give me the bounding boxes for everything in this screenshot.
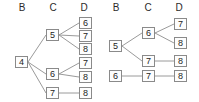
tree-node[interactable]: 8 [79, 43, 92, 55]
column-header-d: D [172, 2, 186, 13]
tree-node[interactable]: 5 [109, 40, 122, 52]
tree-node[interactable]: 7 [79, 30, 92, 42]
tree-edge [59, 35, 79, 36]
tree-panel-left: BCD 4567678788 [0, 0, 99, 102]
tree-node[interactable]: 7 [46, 87, 59, 99]
tree-edge [155, 33, 174, 43]
tree-node[interactable]: 7 [142, 70, 155, 82]
tree-node[interactable]: 6 [79, 17, 92, 29]
tree-edge [59, 23, 79, 35]
tree-node[interactable]: 8 [79, 87, 92, 99]
tree-edge [28, 62, 46, 93]
tree-edge [28, 35, 46, 62]
tree-diagram-figure: BCD 4567678788 BCD 566777888 [0, 0, 199, 102]
tree-node[interactable]: 4 [15, 56, 28, 68]
tree-node[interactable]: 7 [174, 18, 187, 30]
column-header-b: B [15, 2, 29, 13]
tree-node[interactable]: 6 [109, 70, 122, 82]
tree-node[interactable]: 7 [142, 55, 155, 67]
column-header-d: D [77, 2, 91, 13]
tree-panel-right: BCD 566777888 [100, 0, 199, 102]
tree-node[interactable]: 6 [142, 27, 155, 39]
tree-edge [122, 33, 142, 46]
tree-node[interactable]: 5 [46, 29, 59, 41]
tree-edge [155, 24, 174, 33]
tree-edge [59, 63, 79, 74]
tree-node[interactable]: 8 [174, 70, 187, 82]
column-header-c: C [46, 2, 60, 13]
column-header-b: B [109, 2, 123, 13]
tree-edge [59, 35, 79, 49]
tree-edge [122, 46, 142, 61]
column-header-c: C [141, 2, 155, 13]
tree-edge [28, 62, 46, 74]
tree-node[interactable]: 8 [79, 71, 92, 83]
tree-node[interactable]: 8 [174, 37, 187, 49]
tree-node[interactable]: 6 [46, 68, 59, 80]
tree-node[interactable]: 7 [79, 57, 92, 69]
tree-node[interactable]: 8 [174, 55, 187, 67]
tree-edge [59, 74, 79, 77]
